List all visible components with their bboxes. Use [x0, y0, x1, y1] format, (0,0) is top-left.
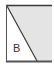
region-label-b: B: [13, 42, 20, 54]
diagram: B: [0, 0, 54, 65]
